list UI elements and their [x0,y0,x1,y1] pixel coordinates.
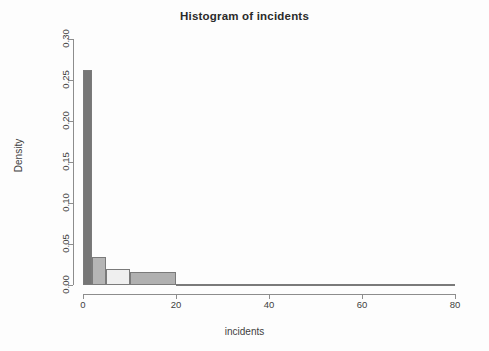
y-tick-label: 0.15 [60,145,71,179]
histogram-bar [83,70,92,285]
x-tick-label: 60 [347,299,377,310]
x-tick-label: 20 [161,299,191,310]
y-tick-label: 0.25 [60,63,71,97]
histogram-plot: Histogram of incidents Density incidents… [0,0,489,351]
y-tick-label: 0.30 [60,22,71,56]
histogram-bar [92,257,106,285]
x-axis-label: incidents [0,326,489,337]
y-tick-label: 0.00 [60,268,71,302]
histogram-bar [130,272,177,285]
histogram-bar [106,269,129,285]
y-axis-line [73,39,74,285]
x-tick-label: 80 [440,299,470,310]
chart-title: Histogram of incidents [0,10,489,22]
y-axis-label: Density [13,116,24,196]
y-tick-label: 0.10 [60,186,71,220]
histogram-bar [176,284,455,286]
x-tick-label: 0 [68,299,98,310]
y-tick-label: 0.20 [60,104,71,138]
x-tick-label: 40 [254,299,284,310]
y-tick-label: 0.05 [60,227,71,261]
